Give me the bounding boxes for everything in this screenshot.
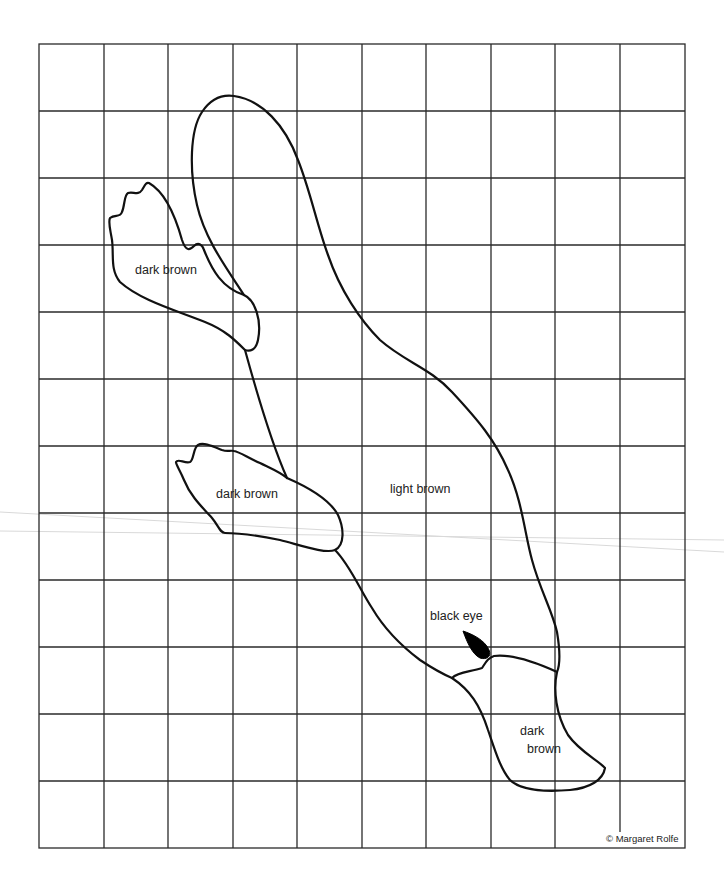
pattern-canvas [0,0,724,890]
bill-label-line2: brown [527,743,561,756]
body-label: light brown [390,483,450,496]
tail-body-outline [192,96,559,672]
copyright-notice: © Margaret Rolfe [604,834,680,844]
eye-shape [463,631,490,659]
bill-label-line1: dark [520,725,544,738]
grid [39,44,685,848]
eye-label: black eye [430,610,483,623]
platypus-figure [109,96,605,791]
front-foot-label: dark brown [216,488,278,501]
back-foot-label: dark brown [135,264,197,277]
